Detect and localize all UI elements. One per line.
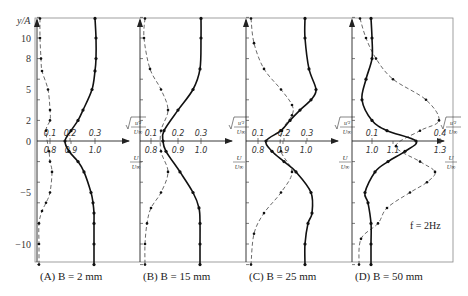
- data-point-marker: [314, 88, 317, 91]
- data-point-marker: [49, 160, 52, 163]
- panel-a: 0.10.20.30.80.91.0u'²U∞UU∞: [34, 17, 146, 266]
- svg-text:U∞: U∞: [235, 164, 244, 170]
- u-tick-label: 1.0: [300, 146, 313, 155]
- data-point-marker: [250, 263, 253, 266]
- data-point-marker: [375, 57, 378, 60]
- frequency-annotation: f = 2Hz: [410, 220, 441, 231]
- svg-text:U: U: [448, 154, 454, 162]
- data-point-marker: [93, 17, 96, 20]
- data-point-marker: [39, 37, 42, 40]
- data-point-marker: [358, 263, 361, 266]
- data-point-marker: [365, 37, 368, 40]
- data-point-marker: [263, 68, 266, 71]
- data-point-marker: [51, 171, 54, 174]
- data-point-marker: [49, 119, 52, 122]
- urms-tick-label: 0.1: [252, 129, 265, 138]
- data-point-marker: [38, 243, 41, 246]
- data-point-marker: [369, 263, 372, 266]
- data-point-marker: [414, 139, 417, 142]
- data-point-marker: [90, 88, 93, 91]
- data-point-marker: [282, 160, 285, 163]
- u-tick-label: 0.8: [145, 146, 158, 155]
- urms-axis-label: u'²U∞: [126, 117, 146, 135]
- u-axis-label: UU∞: [233, 154, 245, 170]
- data-point-marker: [199, 17, 202, 20]
- data-point-marker: [280, 88, 283, 91]
- data-point-marker: [167, 109, 170, 112]
- svg-text:U∞: U∞: [134, 129, 143, 135]
- y-tick-label: 0: [26, 136, 31, 147]
- data-point-marker: [303, 263, 306, 266]
- u-tick-label: 1.0: [195, 146, 208, 155]
- panels: 0.10.20.30.80.91.0u'²U∞UU∞0.10.20.30.80.…: [34, 17, 461, 266]
- data-point-marker: [303, 242, 306, 245]
- data-point-marker: [176, 109, 179, 112]
- data-point-marker: [89, 191, 92, 194]
- data-point-marker: [144, 263, 147, 266]
- data-point-marker: [164, 150, 167, 153]
- y-tick-label: −5: [20, 187, 31, 198]
- data-point-marker: [253, 42, 256, 45]
- data-point-marker: [191, 88, 194, 91]
- data-point-marker: [370, 36, 373, 39]
- mean-velocity-curve: [162, 18, 201, 264]
- data-point-marker: [386, 160, 389, 163]
- data-point-marker: [160, 88, 163, 91]
- data-point-marker: [377, 222, 380, 225]
- u-tick-label: 1.0: [366, 146, 379, 155]
- data-point-marker: [198, 242, 201, 245]
- data-point-marker: [250, 17, 253, 20]
- data-point-marker: [69, 129, 72, 132]
- data-point-marker: [198, 222, 201, 225]
- data-point-marker: [93, 69, 96, 72]
- panel-d: 0.10.41.01.11.3u'²U∞UU∞: [349, 17, 461, 266]
- data-point-marker: [82, 170, 85, 173]
- plot-frame: [35, 18, 453, 262]
- data-point-marker: [143, 37, 146, 40]
- urms-curve: [251, 18, 293, 264]
- data-point-marker: [160, 191, 163, 194]
- data-point-marker: [161, 139, 164, 142]
- data-point-marker: [63, 139, 66, 142]
- y-tick-label: 2: [26, 115, 31, 126]
- data-point-marker: [366, 201, 369, 204]
- u-tick-label: 1.3: [434, 146, 447, 155]
- data-point-marker: [91, 201, 94, 204]
- data-point-marker: [92, 212, 95, 215]
- svg-text:U∞: U∞: [449, 129, 458, 135]
- data-point-marker: [144, 243, 147, 246]
- data-point-marker: [198, 67, 201, 70]
- y-axis-label: y/A: [16, 15, 31, 26]
- svg-text:U∞: U∞: [237, 129, 246, 135]
- data-point-marker: [144, 17, 147, 20]
- y-tick-label: 10: [21, 33, 31, 44]
- caption-panel-c: (C) B = 25 mm: [249, 270, 316, 282]
- data-point-marker: [279, 129, 282, 132]
- data-point-marker: [370, 57, 373, 60]
- data-point-marker: [395, 145, 398, 148]
- urms-tick-label: 0.2: [172, 129, 185, 138]
- data-point-marker: [364, 78, 367, 81]
- data-point-marker: [385, 129, 388, 132]
- data-point-marker: [92, 222, 95, 225]
- data-point-marker: [403, 150, 406, 153]
- data-point-marker: [291, 171, 294, 174]
- data-point-marker: [253, 232, 256, 235]
- urms-tick-label: 0.1: [145, 129, 158, 138]
- data-point-marker: [94, 57, 97, 60]
- data-point-marker: [419, 129, 422, 132]
- u-tick-label: 0.9: [277, 146, 290, 155]
- data-point-marker: [280, 150, 283, 153]
- data-point-marker: [307, 67, 310, 70]
- data-point-marker: [198, 263, 201, 266]
- svg-text:U∞: U∞: [447, 164, 456, 170]
- data-point-marker: [178, 170, 181, 173]
- data-point-marker: [199, 36, 202, 39]
- data-point-marker: [39, 17, 42, 20]
- data-point-marker: [49, 191, 52, 194]
- svg-text:U∞: U∞: [343, 129, 352, 135]
- data-point-marker: [360, 238, 363, 241]
- urms-tick-label: 0.3: [89, 129, 102, 138]
- data-point-marker: [294, 170, 297, 173]
- svg-text:u'²: u'²: [344, 120, 350, 126]
